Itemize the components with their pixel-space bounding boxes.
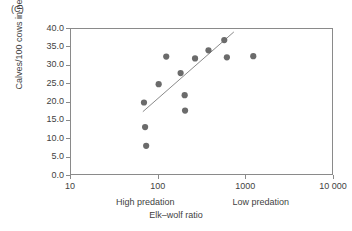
y-tick-label: 15.0 xyxy=(30,115,64,124)
data-points xyxy=(141,37,256,149)
data-point xyxy=(156,81,162,87)
y-tick-label: 35.0 xyxy=(30,42,64,51)
y-tick-label: 20.0 xyxy=(30,97,64,106)
data-point xyxy=(182,107,188,113)
y-axis-title: Calves/100 cows in next year xyxy=(14,0,24,106)
y-tick-label: 30.0 xyxy=(30,60,64,69)
data-point xyxy=(143,143,149,149)
data-point xyxy=(182,92,188,98)
data-point xyxy=(141,99,147,105)
data-point xyxy=(224,54,230,60)
trendline xyxy=(143,32,234,112)
data-point xyxy=(250,53,256,59)
data-point xyxy=(142,124,148,130)
y-tick-label: 40.0 xyxy=(30,24,64,33)
data-point xyxy=(221,37,227,43)
scatter-plot-canvas xyxy=(71,29,334,176)
x-tick-label: 10 000 xyxy=(319,182,347,191)
x-tick-label: 10 xyxy=(65,182,75,191)
region-annotation: High predation xyxy=(116,197,175,207)
trendline-segment xyxy=(143,32,234,112)
figure-panel-c: (C) Calves/100 cows in next year 0.05.01… xyxy=(0,0,352,231)
data-point xyxy=(178,70,184,76)
region-annotation: Low predation xyxy=(232,197,289,207)
y-tick-label: 0.0 xyxy=(30,171,64,180)
plot-area xyxy=(70,28,333,175)
y-tick-label: 5.0 xyxy=(30,152,64,161)
y-tick-label: 10.0 xyxy=(30,134,64,143)
y-tick-label: 25.0 xyxy=(30,79,64,88)
x-tick-label: 100 xyxy=(150,182,165,191)
data-point xyxy=(192,55,198,61)
x-axis-title: Elk–wolf ratio xyxy=(0,210,352,220)
x-tick-label: 1000 xyxy=(235,182,255,191)
data-point xyxy=(205,47,211,53)
data-point xyxy=(163,53,169,59)
